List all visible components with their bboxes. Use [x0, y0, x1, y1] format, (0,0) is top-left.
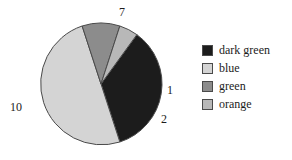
legend-label-orange: orange: [219, 98, 252, 110]
chart-legend: dark green blue green orange: [202, 41, 290, 113]
pie-slice-group: [41, 23, 162, 145]
legend-label-green: green: [219, 80, 246, 92]
pie-slice-label-blue: 10: [10, 101, 22, 113]
legend-swatch-dark-green-icon: [202, 45, 213, 56]
legend-item-orange: orange: [202, 95, 290, 113]
legend-label-dark-green: dark green: [219, 44, 270, 56]
pie-slice-label-orange: 1: [167, 84, 173, 96]
pie-svg: [0, 0, 190, 160]
legend-swatch-blue-icon: [202, 63, 213, 74]
pie-chart-figure: 7 10 2 1 dark green blue green orange: [0, 0, 292, 160]
legend-label-blue: blue: [219, 62, 240, 74]
legend-item-dark-green: dark green: [202, 41, 290, 59]
pie-slice-label-dark-green: 7: [119, 6, 125, 18]
pie-slice-label-green: 2: [161, 113, 167, 125]
pie-plot-area: 7 10 2 1: [0, 0, 190, 160]
legend-swatch-orange-icon: [202, 99, 213, 110]
legend-item-green: green: [202, 77, 290, 95]
legend-swatch-green-icon: [202, 81, 213, 92]
legend-item-blue: blue: [202, 59, 290, 77]
